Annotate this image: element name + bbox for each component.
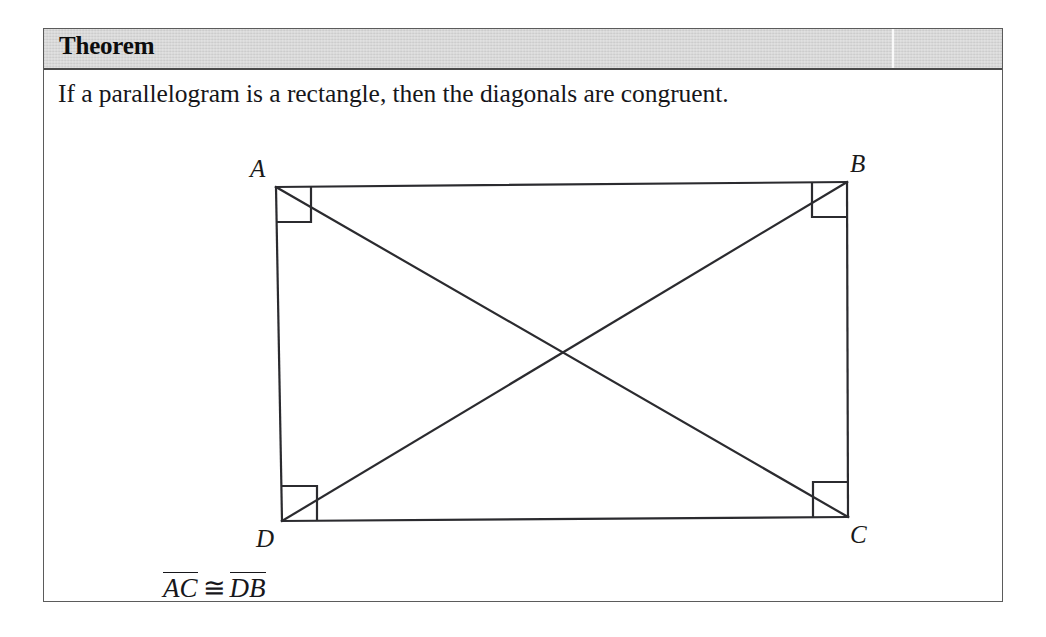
vertex-label-c: C bbox=[850, 521, 867, 548]
header-seam-divider bbox=[892, 29, 894, 68]
congruence-statement: AC≅DB bbox=[163, 572, 266, 604]
side-cd bbox=[282, 517, 848, 521]
figure-geometry bbox=[276, 182, 848, 521]
side-da bbox=[276, 187, 282, 521]
vertex-label-b: B bbox=[850, 150, 865, 177]
theorem-title: Theorem bbox=[59, 32, 154, 60]
segment-ac-label: AC bbox=[163, 572, 198, 603]
theorem-figure: ABCD bbox=[44, 99, 1002, 601]
segment-db-label: DB bbox=[230, 572, 266, 603]
theorem-header-bar: Theorem bbox=[44, 29, 1002, 70]
figure-vertex-labels: ABCD bbox=[248, 150, 867, 552]
rectangle-diagram-svg: ABCD bbox=[44, 99, 1002, 601]
theorem-box: Theorem If a parallelogram is a rectangl… bbox=[43, 28, 1003, 602]
congruent-symbol: ≅ bbox=[198, 573, 230, 603]
vertex-label-a: A bbox=[248, 155, 266, 182]
side-ab bbox=[276, 182, 847, 187]
side-bc bbox=[847, 182, 848, 517]
diagonal-db bbox=[282, 182, 847, 521]
vertex-label-d: D bbox=[255, 525, 274, 552]
